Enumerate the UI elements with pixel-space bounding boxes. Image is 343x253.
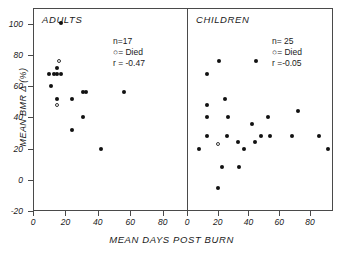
y-tick-mark [28, 24, 33, 25]
x-tick-mark [65, 211, 66, 216]
data-point [81, 115, 85, 119]
data-point [205, 103, 209, 107]
x-tick-mark [33, 211, 34, 216]
data-point [290, 134, 294, 138]
x-tick-mark [187, 211, 188, 216]
x-tick-label: 40 [239, 217, 257, 227]
data-point [268, 134, 272, 138]
y-tick-label: -20 [0, 206, 23, 216]
y-tick-label: 20 [0, 144, 23, 154]
legend-adults: n=17 ○= Died r = -0.47 [113, 36, 145, 69]
y-tick-mark [28, 180, 33, 181]
data-point [253, 140, 257, 144]
panel-title-children: CHILDREN [196, 14, 249, 25]
data-point [242, 147, 246, 151]
x-tick-label: 20 [209, 217, 227, 227]
scatter-figure: ADULTS CHILDREN MEAN BMR Δ (%) MEAN DAYS… [0, 0, 343, 253]
data-point [205, 72, 209, 76]
plot-panel-children [187, 8, 333, 211]
x-tick-label: 60 [270, 217, 288, 227]
data-point [55, 97, 59, 101]
y-tick-label: 80 [0, 50, 23, 60]
x-tick-mark [310, 211, 311, 216]
data-point [59, 21, 63, 25]
legend-adults-n: n=17 [113, 36, 145, 47]
x-tick-label: 60 [121, 217, 139, 227]
x-tick-label: 0 [24, 217, 42, 227]
y-tick-mark [28, 55, 33, 56]
x-tick-label: 40 [89, 217, 107, 227]
x-tick-label: 80 [301, 217, 319, 227]
data-point [326, 147, 330, 151]
x-tick-label: 0 [178, 217, 196, 227]
data-point [250, 122, 254, 126]
data-point [296, 109, 300, 113]
x-tick-mark [98, 211, 99, 216]
x-tick-label: 80 [154, 217, 172, 227]
data-point-died [57, 59, 61, 63]
legend-adults-r: r = -0.47 [113, 58, 145, 69]
data-point [49, 84, 53, 88]
data-point [70, 97, 74, 101]
legend-children-n: n= 25 [272, 36, 302, 47]
y-tick-mark [28, 149, 33, 150]
y-tick-label: 40 [0, 112, 23, 122]
y-tick-mark [28, 86, 33, 87]
x-tick-mark [130, 211, 131, 216]
data-point [59, 72, 63, 76]
data-point [225, 134, 229, 138]
x-tick-mark [248, 211, 249, 216]
legend-adults-died: ○= Died [113, 47, 145, 58]
y-tick-label: 60 [0, 81, 23, 91]
data-point [197, 147, 201, 151]
plot-panel-adults [33, 8, 187, 211]
panel-divider [187, 8, 188, 211]
y-tick-label: 0 [0, 175, 23, 185]
data-point [99, 147, 103, 151]
data-point [236, 140, 240, 144]
data-point-died [216, 142, 220, 146]
data-point [259, 134, 263, 138]
x-tick-mark [218, 211, 219, 216]
data-point [70, 128, 74, 132]
data-point [205, 134, 209, 138]
data-point [216, 186, 220, 190]
x-tick-mark [279, 211, 280, 216]
legend-children-r: r =-0.05 [272, 58, 302, 69]
legend-children: n= 25 ○= Died r =-0.05 [272, 36, 302, 69]
legend-children-died: ○= Died [272, 47, 302, 58]
x-axis-label: MEAN DAYS POST BURN [0, 234, 343, 245]
x-tick-mark [163, 211, 164, 216]
y-tick-label: 100 [0, 19, 23, 29]
y-tick-mark [28, 117, 33, 118]
x-tick-label: 20 [56, 217, 74, 227]
